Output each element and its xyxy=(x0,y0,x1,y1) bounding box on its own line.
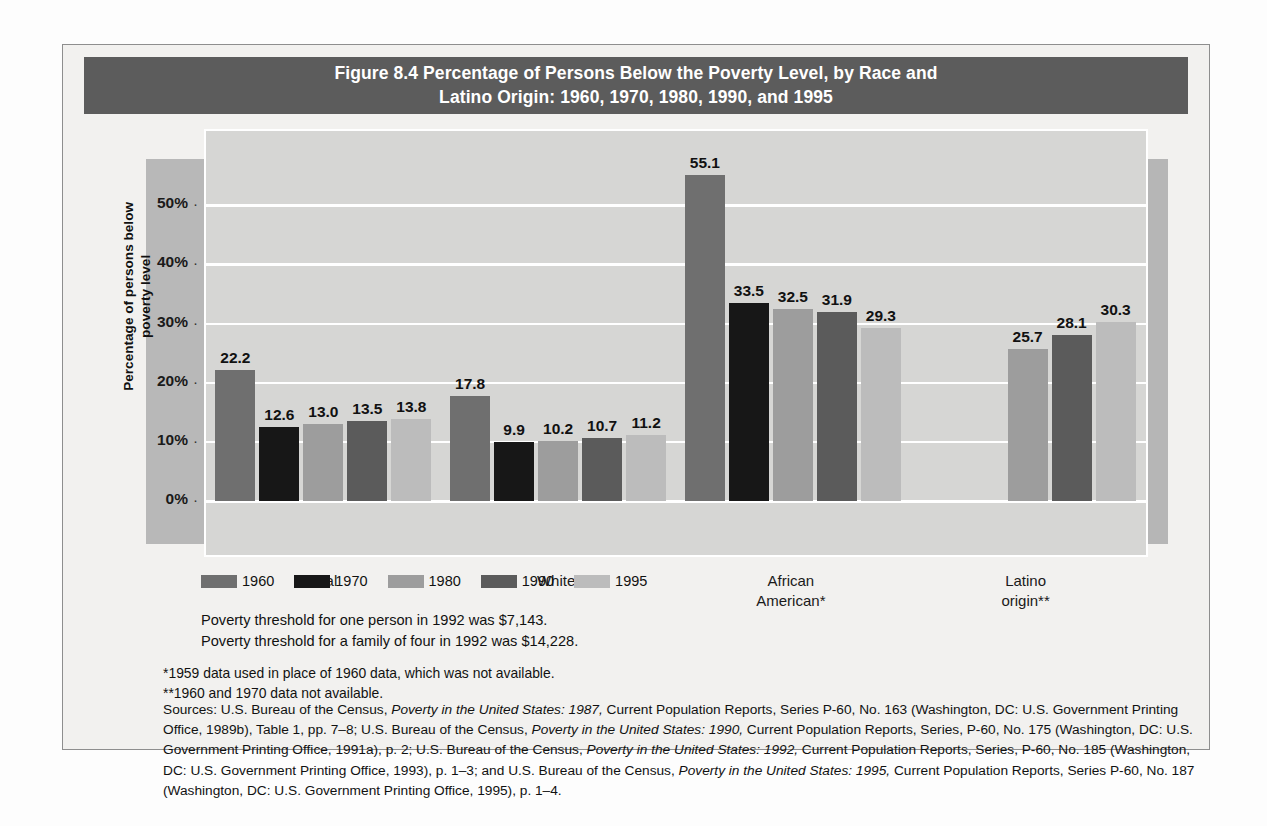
bar-value-label: 17.8 xyxy=(455,375,485,393)
bar: 29.3 xyxy=(861,328,901,501)
title-line-1: Figure 8.4 Percentage of Persons Below t… xyxy=(334,62,937,85)
right-edge-band xyxy=(1146,159,1168,544)
y-axis-tick-label: 50% xyxy=(157,194,188,212)
bar-value-label: 55.1 xyxy=(690,154,720,172)
bar: 25.7 xyxy=(1008,349,1048,501)
bar: 13.8 xyxy=(391,419,431,501)
bar: 9.9 xyxy=(494,442,534,501)
figure-title-bar: Figure 8.4 Percentage of Persons Below t… xyxy=(84,57,1188,114)
bar: 22.2 xyxy=(215,370,255,501)
sources-note: Sources: U.S. Bureau of the Census, Pove… xyxy=(163,700,1199,801)
bar: 32.5 xyxy=(773,309,813,501)
legend-swatch xyxy=(294,575,330,588)
y-axis-tick-label: 0% xyxy=(166,490,188,508)
source-publication-title: Poverty in the United States: 1995, xyxy=(679,763,891,778)
y-axis-tick-mark: · xyxy=(193,313,198,330)
bar-value-label: 13.0 xyxy=(308,403,338,421)
bar: 10.7 xyxy=(582,438,622,501)
bar-value-label: 32.5 xyxy=(778,288,808,306)
bar-value-label: 12.6 xyxy=(264,406,294,424)
x-axis-category-label: AfricanAmerican* xyxy=(756,571,825,610)
bars-layer: 22.212.613.013.513.817.89.910.210.711.25… xyxy=(206,161,1146,501)
source-publication-title: Poverty in the United States: 1990, xyxy=(532,722,744,737)
footnote-asterisk: *1959 data used in place of 1960 data, w… xyxy=(163,663,1183,683)
y-axis-tick-mark: · xyxy=(193,431,198,448)
y-axis-tick-mark: · xyxy=(193,195,198,212)
bar: 11.2 xyxy=(626,435,666,501)
y-axis-tick-label: 40% xyxy=(157,253,188,271)
figure-frame: Figure 8.4 Percentage of Persons Below t… xyxy=(62,44,1210,750)
legend-swatch xyxy=(574,575,610,588)
bar-value-label: 10.7 xyxy=(587,417,617,435)
page-title: Figure 8.4 Percentage of Persons Below t… xyxy=(334,62,937,108)
threshold-notes: Poverty threshold for one person in 1992… xyxy=(201,610,1101,651)
legend-swatch xyxy=(481,575,517,588)
bar: 17.8 xyxy=(450,396,490,501)
y-axis-tick-label: 10% xyxy=(157,431,188,449)
legend-item: 1970 xyxy=(294,573,367,589)
bar-value-label: 13.5 xyxy=(352,400,382,418)
figure-page: Figure 8.4 Percentage of Persons Below t… xyxy=(0,0,1267,826)
bar-value-label: 33.5 xyxy=(734,282,764,300)
source-text: Sources: U.S. Bureau of the Census, xyxy=(163,702,391,717)
bar: 10.2 xyxy=(538,441,578,501)
bar: 13.0 xyxy=(303,424,343,501)
bar: 28.1 xyxy=(1052,335,1092,501)
bar: 33.5 xyxy=(729,303,769,501)
legend-label: 1990 xyxy=(522,573,554,589)
y-axis-tick-label: 30% xyxy=(157,313,188,331)
bar-value-label: 30.3 xyxy=(1101,301,1131,319)
bar-value-label: 28.1 xyxy=(1057,314,1087,332)
legend-label: 1970 xyxy=(335,573,367,589)
y-axis-tick-mark: · xyxy=(193,254,198,271)
source-publication-title: Poverty in the United States: 1987, xyxy=(391,702,603,717)
bar-value-label: 9.9 xyxy=(503,421,525,439)
bar: 30.3 xyxy=(1096,322,1136,501)
bar: 13.5 xyxy=(347,421,387,501)
y-axis-tick-mark: · xyxy=(193,491,198,508)
bar-value-label: 11.2 xyxy=(631,414,660,432)
x-axis-category-label: Latinoorigin** xyxy=(1001,571,1049,610)
legend-item: 1960 xyxy=(201,573,274,589)
bar: 12.6 xyxy=(259,427,299,502)
bar: 55.1 xyxy=(685,175,725,501)
bar-value-label: 10.2 xyxy=(543,420,573,438)
legend-item: 1990 xyxy=(481,573,554,589)
plot-area: 22.212.613.013.513.817.89.910.210.711.25… xyxy=(204,129,1148,557)
legend-label: 1995 xyxy=(615,573,647,589)
bar: 31.9 xyxy=(817,312,857,501)
legend-swatch xyxy=(388,575,424,588)
title-line-2: Latino Origin: 1960, 1970, 1980, 1990, a… xyxy=(334,86,937,109)
bar-value-label: 25.7 xyxy=(1013,328,1043,346)
legend-item: 1980 xyxy=(388,573,461,589)
bar-value-label: 13.8 xyxy=(396,398,426,416)
threshold-note-2: Poverty threshold for a family of four i… xyxy=(201,631,1101,652)
legend-label: 1960 xyxy=(242,573,274,589)
bar-value-label: 22.2 xyxy=(220,349,250,367)
legend: 19601970198019901995 xyxy=(201,573,667,589)
source-publication-title: Poverty in the United States: 1992, xyxy=(587,742,799,757)
bar-value-label: 29.3 xyxy=(866,307,896,325)
footnotes: *1959 data used in place of 1960 data, w… xyxy=(163,663,1183,704)
threshold-note-1: Poverty threshold for one person in 1992… xyxy=(201,610,1101,631)
legend-swatch xyxy=(201,575,237,588)
legend-item: 1995 xyxy=(574,573,647,589)
legend-label: 1980 xyxy=(429,573,461,589)
y-axis-tick-label: 20% xyxy=(157,372,188,390)
bar-value-label: 31.9 xyxy=(822,291,852,309)
y-axis-ticks: 0%·10%·20%·30%·40%·50%· xyxy=(84,159,204,499)
chart-zone: Percentage of persons below poverty leve… xyxy=(84,129,1188,561)
y-axis-tick-mark: · xyxy=(193,372,198,389)
